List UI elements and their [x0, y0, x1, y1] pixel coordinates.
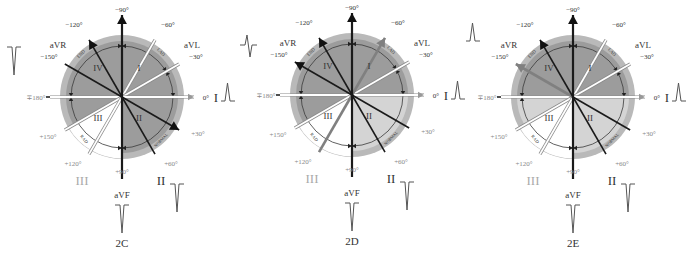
panel-caption: 2D — [345, 235, 359, 247]
label: −30° — [189, 53, 203, 61]
label: ∓180° — [477, 94, 496, 102]
label: +60° — [164, 160, 178, 168]
label: −120° — [65, 21, 82, 29]
lead-label-ii: II — [608, 173, 617, 188]
label: −60° — [391, 19, 405, 27]
label: −150° — [270, 51, 287, 59]
label: −90° — [115, 6, 129, 14]
avf-waveform — [566, 205, 580, 233]
panel-caption: 2E — [567, 237, 580, 249]
lead-label-avl: aVL — [414, 38, 430, 48]
lead-label-avr: aVR — [280, 38, 297, 48]
label: +120° — [515, 160, 532, 168]
label: +60° — [394, 158, 408, 166]
label: +150° — [269, 131, 286, 139]
label: +30° — [642, 130, 656, 138]
panel-caption: 2C — [116, 237, 129, 249]
panel-2c: IIIIIIIVENDLADRADNORMAL−90°−120°−60°−150… — [7, 6, 235, 249]
lead-label-avr: aVR — [501, 40, 518, 50]
label: +120° — [64, 160, 81, 168]
arrowhead-icon — [639, 94, 645, 101]
label: 0° — [433, 92, 440, 100]
label: +90° — [566, 168, 580, 176]
lead-label-ii: II — [157, 173, 166, 188]
lead-label-i: I — [214, 90, 218, 105]
label: −30° — [640, 53, 654, 61]
lead-label-iii: III — [76, 173, 89, 188]
avr-waveform — [240, 35, 257, 57]
quadrant-label: I — [368, 61, 371, 71]
panel-2d: IIIIIIIVENDLADRADNORMAL−90°−120°−60°−150… — [240, 4, 465, 247]
lead-label-avf: aVF — [114, 190, 130, 200]
lead-i-waveform — [672, 83, 686, 101]
label: 0° — [203, 94, 210, 102]
label: −120° — [516, 21, 533, 29]
label: +30° — [191, 130, 205, 138]
label: +30° — [421, 128, 435, 136]
quadrant-label: II — [366, 111, 372, 121]
avf-waveform — [345, 203, 359, 231]
arrowhead-icon — [347, 13, 357, 22]
label: +150° — [490, 133, 507, 141]
lead-ii-waveform — [621, 184, 635, 212]
avr-waveform — [466, 23, 480, 41]
label: +90° — [345, 166, 359, 174]
label: +60° — [615, 160, 629, 168]
quadrant-label: I — [138, 63, 141, 73]
lead-label-avl: aVL — [635, 40, 651, 50]
label: +90° — [115, 168, 129, 176]
label: −90° — [566, 6, 580, 14]
arrowhead-icon — [568, 15, 578, 24]
lead-label-avr: aVR — [50, 40, 67, 50]
quadrant-label: IV — [93, 63, 103, 73]
quadrant-label: IV — [544, 63, 554, 73]
label: −150° — [491, 53, 508, 61]
lead-label-avf: aVF — [344, 188, 360, 198]
lead-ii-waveform — [400, 182, 414, 210]
arrowhead-icon — [117, 15, 127, 24]
lead-i-waveform — [221, 83, 235, 101]
label: −150° — [40, 53, 57, 61]
label: −60° — [161, 21, 175, 29]
quadrant-label: I — [589, 63, 592, 73]
avr-waveform — [7, 47, 21, 75]
label: −90° — [345, 4, 359, 12]
quadrant-label: IV — [323, 61, 333, 71]
lead-label-avl: aVL — [184, 40, 200, 50]
arrowhead-icon — [418, 92, 424, 99]
label: 0° — [654, 94, 661, 102]
figure-stage: IIIIIIIVENDLADRADNORMAL−90°−120°−60°−150… — [0, 0, 699, 264]
avf-waveform — [115, 205, 129, 233]
panel-2e: IIIIIIIVENDLADRADNORMAL−90°−120°−60°−150… — [466, 6, 686, 249]
quadrant-label: II — [136, 113, 142, 123]
label: +120° — [294, 158, 311, 166]
quadrant-label: III — [324, 111, 333, 121]
label: ∓180° — [26, 94, 45, 102]
arrowhead-icon — [188, 94, 194, 101]
lead-label-iii: III — [306, 171, 319, 186]
quadrant-label: III — [545, 113, 554, 123]
label: −120° — [295, 19, 312, 27]
quadrant-label: III — [94, 113, 103, 123]
lead-label-i: I — [444, 88, 448, 103]
lead-label-ii: II — [387, 171, 396, 186]
hexaxial-figure: IIIIIIIVENDLADRADNORMAL−90°−120°−60°−150… — [0, 0, 699, 264]
label: −60° — [612, 21, 626, 29]
lead-label-avf: aVF — [565, 190, 581, 200]
lead-label-i: I — [665, 90, 669, 105]
lead-label-iii: III — [527, 173, 540, 188]
label: −30° — [419, 51, 433, 59]
label: ∓180° — [256, 92, 275, 100]
lead-i-waveform — [451, 81, 465, 99]
quadrant-label: II — [587, 113, 593, 123]
lead-ii-waveform — [170, 184, 184, 212]
label: +150° — [39, 133, 56, 141]
